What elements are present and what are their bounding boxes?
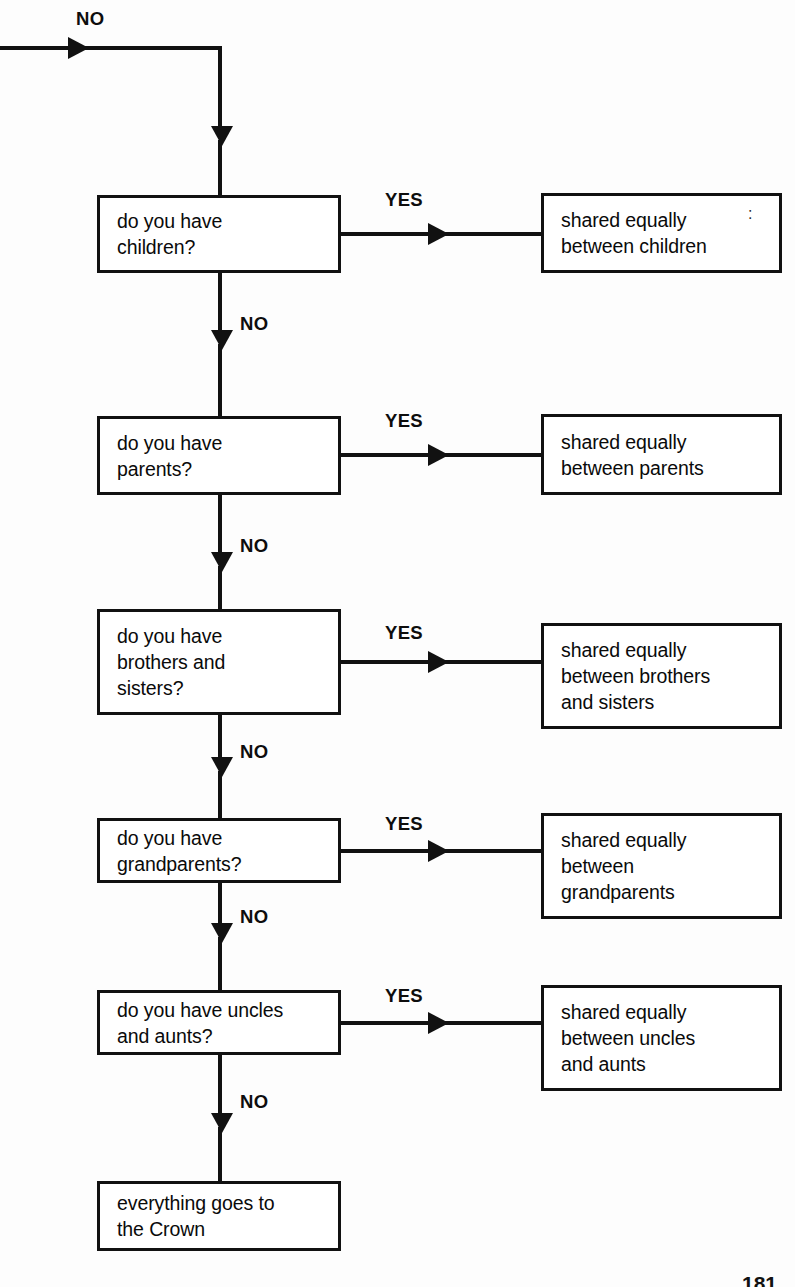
terminal-node-crown-label: everything goes to the Crown (100, 1190, 283, 1242)
outcome-node-children-label: shared equally between children (544, 207, 715, 259)
edge-label-no-grandparents: NO (240, 906, 268, 928)
outcome-node-grandparents[interactable]: shared equally between grandparents (541, 813, 782, 919)
edge-label-yes-grandparents: YES (385, 813, 423, 835)
no-arrow-uncles-aunts-icon (211, 1113, 233, 1133)
decision-node-grandparents[interactable]: do you have grandparents? (97, 818, 341, 883)
outcome-node-siblings-label: shared equally between brothers and sist… (544, 637, 718, 715)
edge-label-yes-uncles-aunts: YES (385, 985, 423, 1007)
decision-node-children-label: do you have children? (100, 208, 230, 260)
yes-arrow-children-icon (428, 223, 449, 245)
decision-node-parents-label: do you have parents? (100, 430, 230, 482)
edge-label-no-siblings: NO (240, 741, 268, 763)
flowchart-canvas: NO do you have children? YES shared equa… (0, 0, 795, 1287)
edge-label-no-parents: NO (240, 535, 268, 557)
outcome-node-parents-label: shared equally between parents (544, 429, 712, 481)
yes-arrow-grandparents-icon (428, 840, 449, 862)
edge-label-yes-siblings: YES (385, 622, 423, 644)
entry-arrow-right-icon (68, 37, 89, 59)
outcome-node-uncles-aunts-label: shared equally between uncles and aunts (544, 999, 703, 1077)
edge-label-no-children: NO (240, 313, 268, 335)
edge-label-no-uncles-aunts: NO (240, 1091, 268, 1113)
yes-arrow-siblings-icon (428, 651, 449, 673)
no-connector-siblings (218, 715, 222, 762)
entry-connector-horizontal (0, 46, 222, 50)
outcome-node-grandparents-label: shared equally between grandparents (544, 827, 694, 905)
no-connector-children (218, 273, 222, 335)
edge-label-yes-children: YES (385, 189, 423, 211)
no-arrow-siblings-icon (211, 757, 233, 777)
edge-label-entry-no: NO (76, 8, 104, 30)
no-arrow-parents-icon (211, 552, 233, 572)
entry-connector-vertical-lower (218, 140, 222, 197)
outcome-node-siblings[interactable]: shared equally between brothers and sist… (541, 623, 782, 729)
outcome-node-uncles-aunts[interactable]: shared equally between uncles and aunts (541, 985, 782, 1091)
decision-node-siblings-label: do you have brothers and sisters? (100, 623, 233, 701)
edge-label-yes-parents: YES (385, 410, 423, 432)
no-connector-grandparents (218, 883, 222, 928)
yes-arrow-uncles-aunts-icon (428, 1012, 449, 1034)
decision-node-uncles-aunts[interactable]: do you have uncles and aunts? (97, 990, 341, 1055)
scan-artifact-colon: : (748, 205, 752, 223)
no-arrow-grandparents-icon (211, 923, 233, 943)
decision-node-uncles-aunts-label: do you have uncles and aunts? (100, 997, 291, 1049)
outcome-node-children[interactable]: shared equally between children (541, 193, 782, 273)
page-number: 181 (742, 1272, 786, 1287)
decision-node-parents[interactable]: do you have parents? (97, 416, 341, 495)
no-connector-uncles-aunts-lower (218, 1127, 222, 1182)
entry-connector-vertical (218, 46, 222, 138)
terminal-node-crown[interactable]: everything goes to the Crown (97, 1181, 341, 1251)
no-connector-parents (218, 495, 222, 557)
outcome-node-parents[interactable]: shared equally between parents (541, 414, 782, 495)
no-connector-parents-lower (218, 566, 222, 610)
decision-node-siblings[interactable]: do you have brothers and sisters? (97, 609, 341, 715)
decision-node-children[interactable]: do you have children? (97, 195, 341, 273)
no-arrow-children-icon (211, 330, 233, 350)
no-connector-grandparents-lower (218, 937, 222, 992)
no-connector-uncles-aunts (218, 1055, 222, 1118)
decision-node-grandparents-label: do you have grandparents? (100, 825, 249, 877)
no-connector-siblings-lower (218, 771, 222, 819)
yes-arrow-parents-icon (428, 444, 449, 466)
no-connector-children-lower (218, 344, 222, 417)
entry-arrow-down-icon (211, 126, 233, 146)
